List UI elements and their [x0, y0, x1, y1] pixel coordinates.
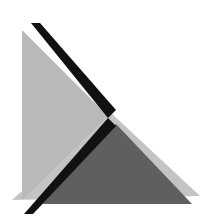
geometric-artwork	[0, 0, 216, 217]
